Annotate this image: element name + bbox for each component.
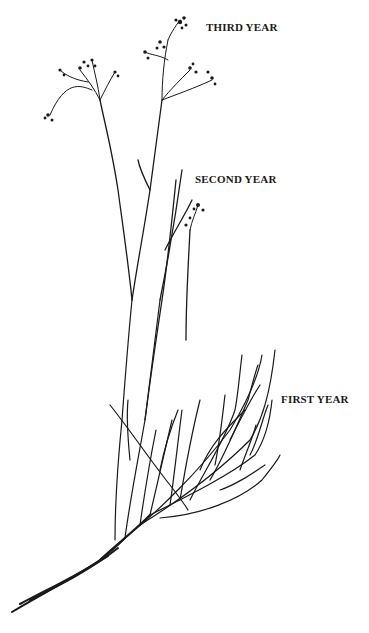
second-year-stems [100,100,192,420]
third-year-inflorescences [50,20,212,230]
figure-caption [0,627,369,633]
third-year-label: THIRD YEAR [206,21,278,33]
flower-clusters [44,16,217,226]
crossing-branches [110,300,188,540]
plant-illustration: THIRD YEAR SECOND YEAR FIRST YEAR [0,0,369,633]
plant-drawing [0,0,369,633]
first-year-branches [125,350,280,538]
first-year-label: FIRST YEAR [281,393,349,405]
main-stem [12,515,150,612]
second-year-label: SECOND YEAR [195,173,277,185]
